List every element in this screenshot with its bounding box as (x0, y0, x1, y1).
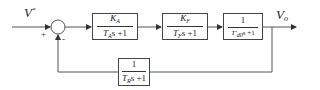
amplifier-denominator: TAs +1 (103, 29, 127, 39)
output-label: Vo (276, 8, 288, 23)
amplifier-numerator: KA (110, 14, 120, 24)
exciter-block: KF TFs +1 (162, 13, 208, 40)
generator-denominator: T'd0s +1 (231, 30, 254, 38)
sensor-feedback-block: 1 TRs +1 (118, 58, 150, 86)
generator-numerator: 1 (241, 16, 246, 25)
fraction-bar (122, 71, 146, 72)
generator-block: 1 T'd0s +1 (223, 13, 263, 40)
summing-junction (51, 20, 65, 34)
amplifier-block: KA TAs +1 (92, 13, 138, 40)
sensor-denominator: TRs +1 (122, 74, 146, 84)
plus-sign: + (41, 30, 46, 39)
input-superscript: * (32, 6, 36, 14)
output-symbol: V (276, 7, 284, 22)
minus-sign: - (62, 35, 65, 44)
fraction-bar (228, 27, 258, 28)
fraction-bar (167, 26, 202, 27)
fraction-bar (97, 26, 132, 27)
feedback-return (58, 35, 118, 72)
exciter-numerator: KF (180, 14, 190, 24)
exciter-denominator: TFs +1 (173, 29, 197, 39)
input-symbol: V (24, 5, 32, 20)
output-subscript: o (284, 14, 288, 23)
input-label: V* (24, 6, 35, 19)
sensor-numerator: 1 (132, 60, 137, 69)
